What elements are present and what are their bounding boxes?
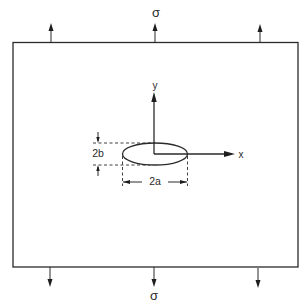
x-axis-label: x bbox=[239, 149, 244, 160]
arrow-down-icon bbox=[256, 268, 261, 288]
arrow-up-icon bbox=[258, 24, 263, 43]
arrow-down-icon bbox=[152, 267, 157, 287]
top-stress-arrows bbox=[49, 23, 263, 43]
bottom-stress-arrows bbox=[48, 267, 261, 288]
coordinate-axes bbox=[151, 92, 235, 157]
top-stress-label: σ bbox=[152, 5, 160, 20]
y-axis-label: y bbox=[153, 80, 158, 91]
y-axis-arrow-icon bbox=[151, 92, 156, 154]
height-dimension-label: 2b bbox=[92, 147, 104, 159]
arrow-up-icon bbox=[153, 23, 158, 42]
x-axis-arrow-icon bbox=[154, 151, 235, 157]
width-dimension-label: 2a bbox=[149, 175, 161, 187]
plate-outline bbox=[13, 43, 298, 268]
elliptical-hole-plate-diagram: σ σ y x bbox=[0, 0, 305, 308]
bottom-stress-label: σ bbox=[150, 288, 158, 303]
arrow-up-icon bbox=[49, 23, 54, 42]
arrow-down-icon bbox=[48, 267, 53, 287]
